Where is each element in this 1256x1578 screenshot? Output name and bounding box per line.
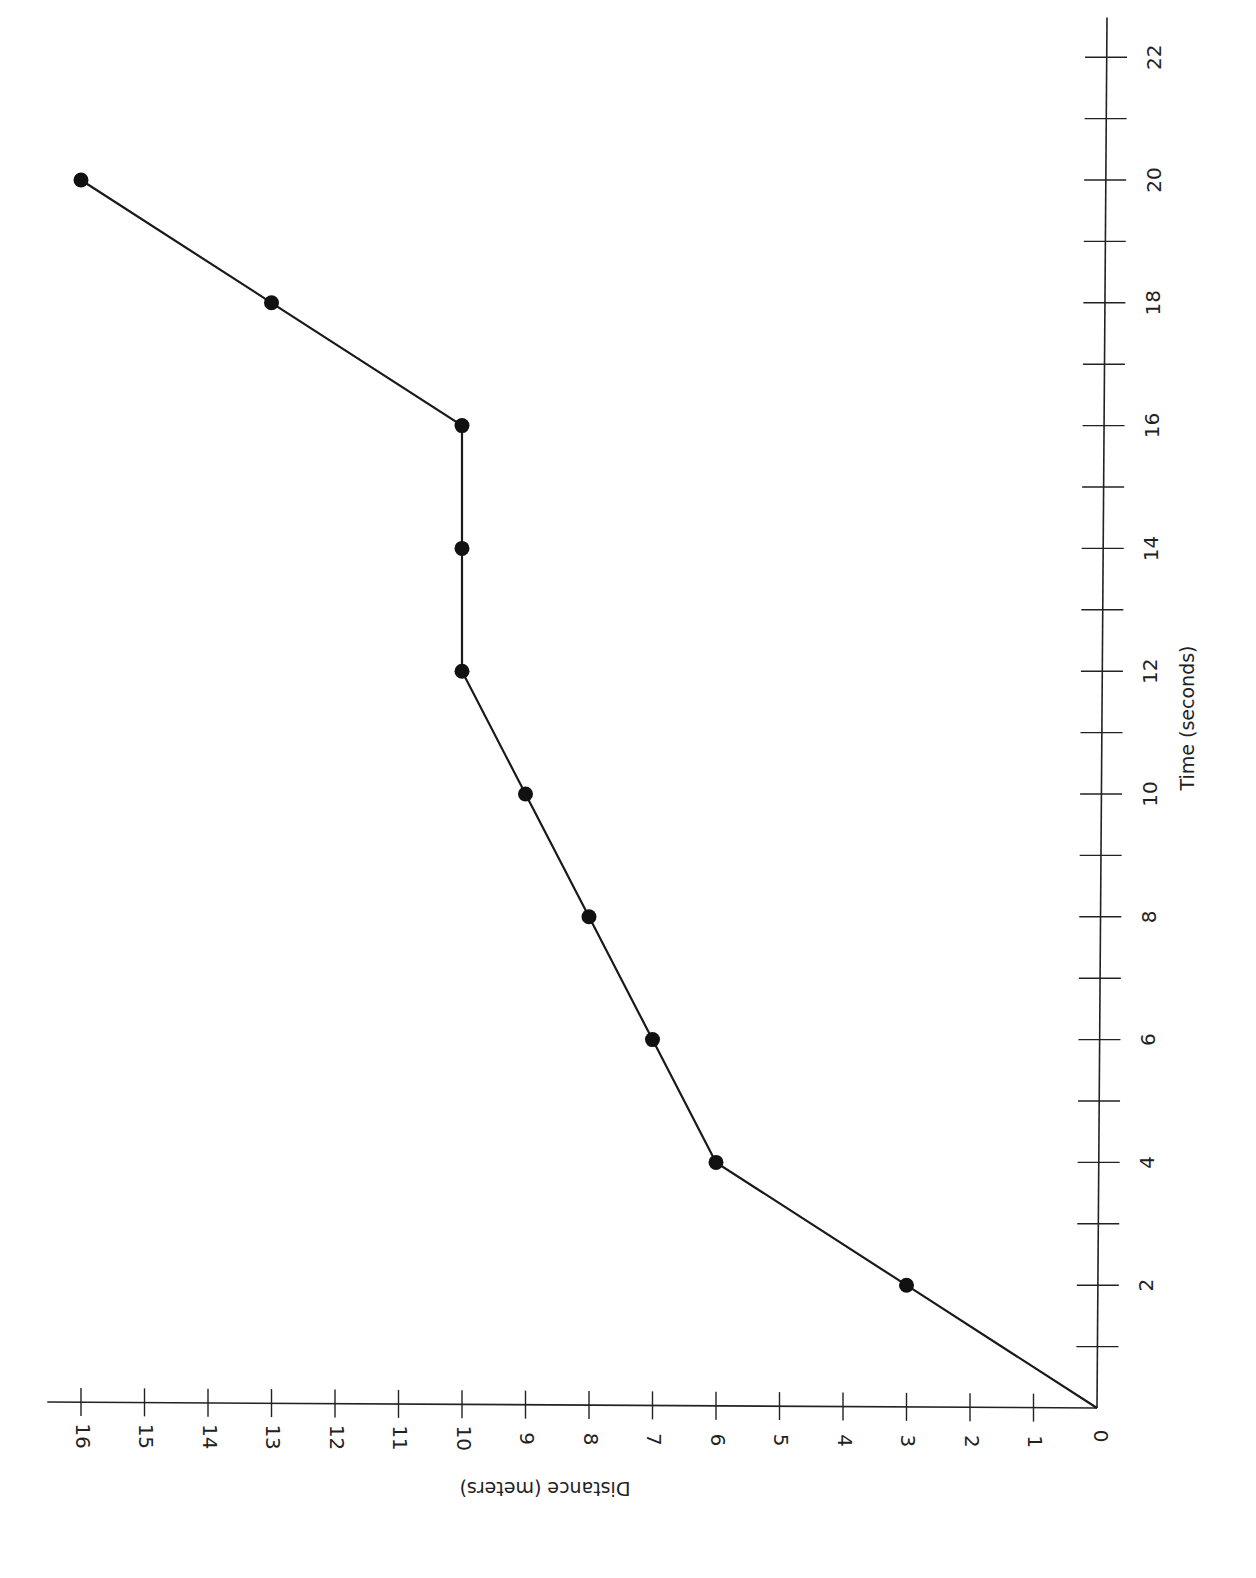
data-line (81, 180, 1097, 1408)
distance-tick-label: 7 (642, 1433, 666, 1446)
distance-tick-label: 1 (1023, 1435, 1047, 1448)
data-point (264, 295, 279, 310)
distance-tick-label: 2 (960, 1435, 984, 1448)
plot-area: 2468101214161820221234567891011121314151… (47, 17, 1197, 1499)
distance-tick-label: 14 (198, 1424, 222, 1449)
data-point (899, 1278, 914, 1293)
data-point (74, 173, 89, 188)
distance-tick-label: 5 (769, 1434, 793, 1447)
distance-tick-label: 12 (325, 1425, 349, 1450)
origin-label: 0 (1089, 1430, 1113, 1443)
data-point (455, 541, 470, 556)
data-point (645, 1032, 660, 1047)
data-point (455, 418, 470, 433)
data-point (455, 664, 470, 679)
data-point (518, 787, 533, 802)
distance-axis (47, 1402, 1097, 1408)
time-tick-label: 4 (1135, 1156, 1159, 1169)
data-point (709, 1155, 724, 1170)
time-tick-label: 18 (1141, 290, 1165, 315)
distance-tick-label: 9 (515, 1432, 539, 1445)
time-tick-label: 10 (1138, 781, 1162, 806)
time-tick-label: 14 (1139, 536, 1163, 561)
distance-time-chart: 2468101214161820221234567891011121314151… (0, 0, 1256, 1578)
time-tick-label: 2 (1134, 1279, 1158, 1292)
distance-tick-label: 15 (134, 1424, 158, 1449)
distance-tick-label: 10 (452, 1426, 476, 1451)
distance-tick-label: 11 (388, 1425, 412, 1450)
time-tick-label: 22 (1143, 44, 1167, 69)
distance-tick-label: 3 (896, 1435, 920, 1448)
distance-tick-label: 4 (833, 1434, 857, 1447)
data-point (582, 909, 597, 924)
time-tick-label: 12 (1138, 658, 1162, 683)
distance-tick-label: 13 (261, 1424, 285, 1449)
distance-tick-label: 16 (71, 1423, 95, 1448)
distance-tick-label: 8 (579, 1433, 603, 1446)
time-axis-title: Time (seconds) (1176, 645, 1198, 791)
distance-tick-label: 6 (706, 1433, 730, 1446)
time-tick-label: 8 (1137, 910, 1161, 923)
distance-axis-title: Distance (meters) (460, 1478, 631, 1500)
time-tick-label: 20 (1142, 167, 1166, 192)
time-tick-label: 6 (1136, 1033, 1160, 1046)
time-axis (1097, 17, 1107, 1408)
time-tick-label: 16 (1140, 413, 1164, 438)
